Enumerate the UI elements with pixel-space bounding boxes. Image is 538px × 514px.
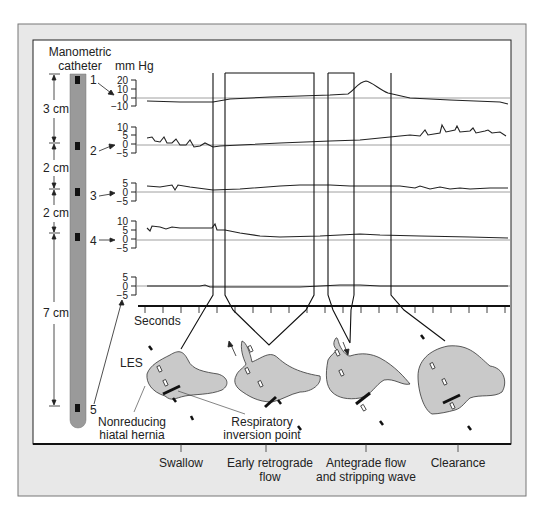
- sensor-1: [75, 76, 80, 84]
- distance-label-3: 2 cm: [43, 206, 69, 220]
- phase-label-swallow: Swallow: [159, 456, 203, 470]
- phase-label-clearance: Clearance: [431, 456, 486, 470]
- resp-inversion-label-2: inversion point: [223, 428, 301, 442]
- ch5-tick: −5: [117, 290, 129, 301]
- sensor-2: [75, 142, 80, 150]
- distance-label-1: 3 cm: [43, 102, 69, 116]
- manometric-catheter: [70, 74, 86, 428]
- phase-label-antegrade-2: and stripping wave: [316, 470, 416, 484]
- units-label: mm Hg: [115, 59, 154, 73]
- les-label: LES: [120, 356, 143, 370]
- ch3-tick: −5: [117, 196, 129, 207]
- catheter-title-2: catheter: [58, 59, 101, 73]
- catheter-title: Manometric: [49, 45, 112, 59]
- ch4-tick: −5: [117, 243, 129, 254]
- ch2-tick: −5: [117, 148, 129, 159]
- sensor-4: [75, 233, 80, 241]
- phase-label-early-retrograde: Early retrograde: [227, 456, 313, 470]
- esophageal-manometry-figure: Manometric catheter mm Hg 3 cm 2 cm: [0, 0, 538, 514]
- ch1-tick: −10: [111, 101, 128, 112]
- sensor-5: [75, 404, 80, 412]
- distance-label-2: 2 cm: [43, 161, 69, 175]
- sensor-3: [75, 188, 80, 196]
- sensor-label-1: 1: [90, 73, 97, 87]
- phase-label-antegrade: Antegrade flow: [326, 456, 406, 470]
- hernia-label-2: hiatal hernia: [99, 428, 165, 442]
- sensor-label-3: 3: [90, 189, 97, 203]
- distance-label-4: 7 cm: [43, 306, 69, 320]
- phase-label-early-retrograde-2: flow: [259, 470, 281, 484]
- sensor-label-5: 5: [90, 403, 97, 417]
- sensor-label-4: 4: [90, 234, 97, 248]
- hernia-label: Nonreducing: [98, 415, 166, 429]
- seconds-label: Seconds: [134, 314, 181, 328]
- sensor-label-2: 2: [90, 144, 97, 158]
- resp-inversion-label: Respiratory: [231, 415, 292, 429]
